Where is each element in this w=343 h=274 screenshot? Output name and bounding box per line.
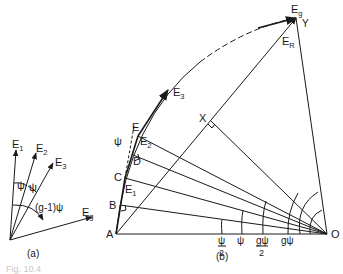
- label-e3: E3: [173, 86, 185, 101]
- label-eg: Eg: [291, 3, 303, 18]
- label-e3: E3: [55, 156, 67, 171]
- vector-eg: [258, 18, 296, 28]
- point-a: A: [106, 228, 114, 240]
- line-oe: [138, 136, 327, 234]
- vector-e1: [10, 150, 16, 240]
- svg-text:ψ: ψ: [218, 235, 225, 246]
- line-od: [133, 155, 327, 234]
- point-o: O: [331, 228, 340, 240]
- point-b: B: [109, 199, 116, 211]
- vector-eg: [10, 217, 92, 240]
- label-e1: E1: [125, 183, 137, 198]
- label-e2: E2: [36, 142, 48, 157]
- panel-b: A B C D E X Y O E1 E2 E3 Eg ER ψ ψ 2 ψ g…: [106, 3, 340, 262]
- label-psi-2: ψ: [29, 181, 37, 193]
- label-e1: E1: [12, 138, 24, 153]
- label-g-minus-1-psi: (g-1)ψ: [35, 202, 63, 213]
- label-e2: E2: [140, 135, 152, 150]
- vector-er: [116, 18, 296, 234]
- label-psi-mark: ψ: [114, 135, 122, 147]
- line-ob: [120, 205, 327, 234]
- angle-label-g-psi: gψ: [281, 235, 294, 246]
- caption-a: (a): [27, 248, 39, 259]
- angle-label-psi: ψ: [237, 235, 244, 246]
- point-d: D: [133, 155, 141, 167]
- panel-a: E1 E2 E3 Eg ψ ψ (g-1)ψ (a): [10, 138, 94, 259]
- angle-arc-3: [263, 201, 266, 234]
- svg-text:gψ: gψ: [256, 235, 269, 246]
- vector-e3: [138, 90, 168, 136]
- figure-caption: Fig. 10.4: [6, 264, 41, 274]
- phasor-diagram: E1 E2 E3 Eg ψ ψ (g-1)ψ (a): [0, 0, 343, 274]
- label-er: ER: [282, 35, 295, 50]
- line-oy: [296, 18, 327, 234]
- right-angle-x: [208, 124, 215, 128]
- svg-text:2: 2: [259, 248, 264, 258]
- vector-e2: [10, 153, 36, 240]
- point-e: E: [132, 121, 139, 133]
- svg-text:gψ: gψ: [281, 235, 294, 246]
- caption-b: (b): [216, 251, 228, 262]
- label-psi-1: ψ: [17, 179, 25, 191]
- point-y: Y: [302, 18, 309, 29]
- angle-label-g-psi-half: gψ 2: [256, 235, 269, 258]
- label-eg: Eg: [82, 206, 94, 221]
- point-x: X: [199, 112, 207, 124]
- svg-text:ψ: ψ: [237, 235, 244, 246]
- angle-arc-1: [222, 220, 223, 234]
- angle-arc-4: [288, 193, 298, 234]
- point-c: C: [114, 171, 122, 183]
- line-ox: [211, 121, 327, 234]
